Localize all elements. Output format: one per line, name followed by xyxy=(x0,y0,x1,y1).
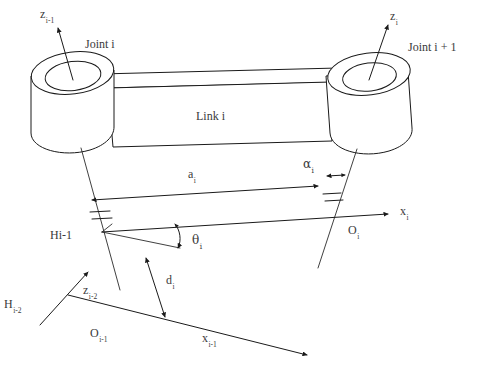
diagram-canvas xyxy=(0,0,483,377)
link-twist-alpha-i xyxy=(327,175,345,176)
link-length-a-i xyxy=(92,186,318,200)
perpendicular-tick-marks-right xyxy=(323,193,343,201)
label-origin-i: Oi xyxy=(348,224,359,239)
label-z-axis-i-minus-2: zi-2 xyxy=(83,284,97,299)
x-axis-i-minus-1 xyxy=(68,295,307,355)
label-joint-i: Joint i xyxy=(85,38,115,50)
label-joint-i-plus-1: Joint i + 1 xyxy=(408,41,456,53)
joint-i-plus-1-cylinder xyxy=(325,48,412,154)
link-i-body xyxy=(100,68,345,147)
label-h-i-minus-2: Hi-2 xyxy=(4,298,21,313)
label-x-axis-i: xi xyxy=(400,205,408,220)
label-z-axis-i: zi xyxy=(390,10,397,25)
label-a-i: ai xyxy=(188,168,195,183)
x-axis-i xyxy=(102,214,388,232)
label-h-i-minus-1: Hi-1 xyxy=(50,229,72,241)
label-link-i: Link i xyxy=(196,110,225,122)
dh-parameters-diagram: zi-1 Joint i zi Joint i + 1 Link i ai αi… xyxy=(0,0,483,377)
label-d-i: di xyxy=(166,274,174,289)
label-theta-i: θi xyxy=(192,234,202,249)
perpendicular-tick-marks-left xyxy=(90,211,112,219)
joint-i-cylinder xyxy=(29,47,116,153)
label-origin-i-minus-1: Oi-1 xyxy=(90,327,107,342)
label-x-axis-i-minus-1: xi-1 xyxy=(202,332,216,347)
label-alpha-i: αi xyxy=(303,158,314,173)
label-z-axis-i-minus-1: zi-1 xyxy=(40,8,54,23)
link-offset-d-i xyxy=(146,258,165,317)
